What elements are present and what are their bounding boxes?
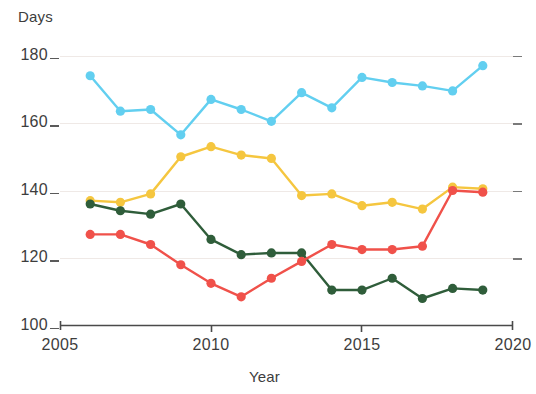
data-point [267,248,276,257]
data-point [357,285,366,294]
data-point [418,294,427,303]
data-point [146,210,155,219]
data-point [297,257,306,266]
data-point [116,230,125,239]
data-point [388,245,397,254]
data-point [116,198,125,207]
data-point [357,201,366,210]
data-point [388,274,397,283]
data-point [206,279,215,288]
data-point [418,242,427,251]
data-point [448,284,457,293]
data-point [478,188,487,197]
data-point [448,86,457,95]
data-point [418,81,427,90]
axis-lines [60,321,513,332]
data-point [267,117,276,126]
data-point [297,248,306,257]
series-light-blue-series [86,61,488,139]
series-line [90,66,483,135]
data-point [86,71,95,80]
data-point [237,105,246,114]
data-point [267,154,276,163]
data-point [146,105,155,114]
data-point [478,285,487,294]
data-point [418,204,427,213]
data-point [176,152,185,161]
data-point [176,260,185,269]
data-point [206,235,215,244]
data-point [478,61,487,70]
data-point [327,103,336,112]
series-red-series [86,186,488,302]
data-point [267,274,276,283]
data-point [357,73,366,82]
series-dark-green-series [86,199,488,303]
data-point [327,240,336,249]
data-point [86,199,95,208]
data-point [448,186,457,195]
data-point [206,95,215,104]
data-point [357,245,366,254]
data-point [86,230,95,239]
data-point [297,191,306,200]
data-point [237,250,246,259]
data-point [327,189,336,198]
data-point [297,88,306,97]
data-point [116,107,125,116]
data-point [176,130,185,139]
data-point [237,150,246,159]
data-point [206,142,215,151]
data-point [327,285,336,294]
data-point [237,292,246,301]
series-yellow-series [86,142,488,214]
data-point [116,206,125,215]
data-point [388,198,397,207]
data-point [176,199,185,208]
series-line [90,147,483,209]
data-point [388,78,397,87]
data-point [146,189,155,198]
data-series-group [86,61,488,303]
data-point [146,240,155,249]
